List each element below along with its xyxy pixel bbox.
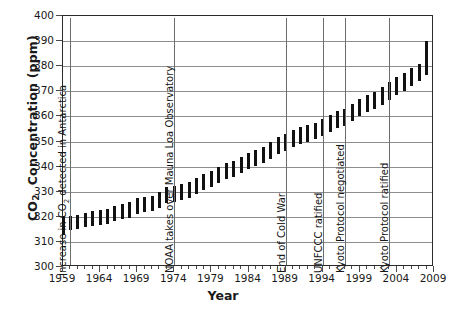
y-tick-label: 350 <box>20 135 54 147</box>
y-tick-label: 400 <box>20 9 54 21</box>
x-tick-minor <box>329 266 330 269</box>
bar <box>113 206 116 222</box>
x-tick-minor <box>292 266 293 269</box>
gridline <box>63 242 432 243</box>
gridline <box>63 116 432 117</box>
gridline <box>63 217 432 218</box>
x-tick-minor <box>107 266 108 269</box>
x-tick-minor <box>277 266 278 269</box>
y-tick-label: 390 <box>20 34 54 46</box>
x-tick-minor <box>337 266 338 269</box>
x-tick-minor <box>262 266 263 269</box>
x-tick-minor <box>121 266 122 269</box>
x-tick-minor <box>69 266 70 269</box>
x-tick-minor <box>77 266 78 269</box>
bar <box>106 209 109 224</box>
bar <box>262 147 265 163</box>
x-tick-minor <box>255 266 256 269</box>
x-tick-minor <box>158 266 159 269</box>
x-tick-label: 1974 <box>153 272 193 284</box>
bar <box>240 157 243 174</box>
bar <box>188 182 191 198</box>
annotation-label: Kyoto Protocol ratified <box>379 163 390 273</box>
x-tick-label: 1969 <box>116 272 156 284</box>
bar <box>76 215 79 229</box>
x-tick-minor <box>426 266 427 269</box>
annotation-label: End of Cold War <box>276 193 287 273</box>
x-tick-minor <box>129 266 130 269</box>
bar <box>136 198 139 214</box>
bar <box>180 184 183 200</box>
bar <box>314 123 317 139</box>
y-tick-label: 360 <box>20 109 54 121</box>
bar <box>351 104 354 122</box>
x-tick-minor <box>344 266 345 269</box>
bar <box>336 111 339 128</box>
bar <box>143 197 146 212</box>
y-tick-label: 380 <box>20 59 54 71</box>
x-tick-minor <box>418 266 419 269</box>
bar <box>151 196 154 211</box>
bar <box>158 192 161 208</box>
bar <box>329 115 332 132</box>
y-tick-label: 320 <box>20 210 54 222</box>
x-tick-minor <box>374 266 375 269</box>
x-tick-minor <box>366 266 367 269</box>
bar <box>403 73 406 91</box>
x-tick-minor <box>84 266 85 269</box>
bar <box>306 125 309 141</box>
x-tick-minor <box>307 266 308 269</box>
gridline <box>63 192 432 193</box>
x-tick-label: 1989 <box>265 272 305 284</box>
x-tick-minor <box>240 266 241 269</box>
annotation-label: UNFCCC ratified <box>313 193 324 273</box>
bar <box>277 137 280 154</box>
bar <box>366 95 369 112</box>
y-tick-label: 330 <box>20 185 54 197</box>
x-tick-minor <box>270 266 271 269</box>
bar <box>299 127 302 144</box>
x-tick-label: 1959 <box>42 272 82 284</box>
y-tick-label: 310 <box>20 235 54 247</box>
bar <box>247 153 250 169</box>
x-tick-minor <box>218 266 219 269</box>
bar <box>128 202 131 217</box>
annotation-label: Kyoto Protocol negotiated <box>335 144 346 273</box>
bar <box>99 210 102 225</box>
x-tick-minor <box>114 266 115 269</box>
bar <box>373 92 376 109</box>
bar <box>91 211 94 226</box>
x-tick-minor <box>144 266 145 269</box>
y-tick-label: 340 <box>20 160 54 172</box>
gridline <box>63 91 432 92</box>
bar <box>254 150 257 166</box>
bar <box>292 130 295 147</box>
x-tick-minor <box>203 266 204 269</box>
x-tick-label: 1999 <box>339 272 379 284</box>
bar <box>232 161 235 177</box>
x-tick-minor <box>151 266 152 269</box>
x-tick-minor <box>411 266 412 269</box>
x-tick-minor <box>92 266 93 269</box>
y-tick-label: 300 <box>20 260 54 272</box>
x-tick-minor <box>181 266 182 269</box>
y-tick-label: 370 <box>20 84 54 96</box>
x-tick-minor <box>225 266 226 269</box>
x-tick-minor <box>233 266 234 269</box>
x-tick-minor <box>314 266 315 269</box>
x-tick-minor <box>403 266 404 269</box>
bar <box>418 64 421 82</box>
bar <box>225 163 228 179</box>
bar <box>217 167 220 184</box>
bar <box>195 178 198 194</box>
x-axis-title: Year <box>0 288 446 303</box>
x-tick-minor <box>351 266 352 269</box>
bar <box>381 87 384 104</box>
x-tick-label: 1964 <box>79 272 119 284</box>
gridline <box>63 142 432 143</box>
x-tick-label: 1994 <box>302 272 342 284</box>
bar <box>410 68 413 86</box>
bar <box>84 213 87 227</box>
x-tick-minor <box>299 266 300 269</box>
